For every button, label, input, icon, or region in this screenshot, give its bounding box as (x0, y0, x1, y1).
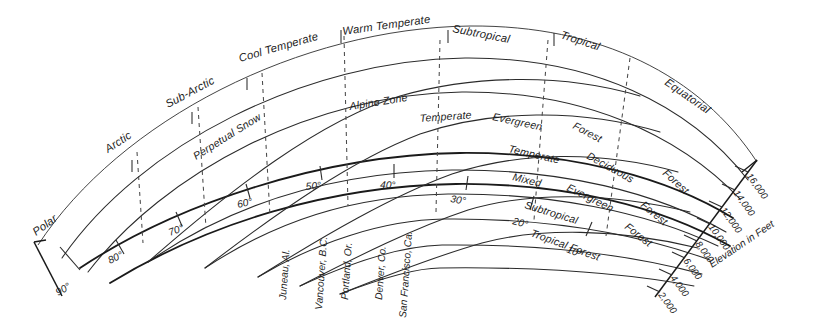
lat-tick-30 (466, 176, 468, 190)
elev-label-6000: 6,000 (681, 256, 704, 282)
zone-label-arctic: Arctic (102, 129, 134, 156)
separator-cool-temperate (262, 73, 270, 216)
lat-label-80: 80° (106, 249, 125, 266)
city-label-san-francisco: San Francisco, Ca. (397, 231, 414, 318)
lat-label-90: 90° (54, 281, 73, 298)
veg-label-perpetual-snow: Perpetual Snow (191, 110, 264, 162)
vegetation-label-group: Perpetual Snow Alpine Zone Temperate Eve… (191, 91, 693, 263)
zone-label-equatorial: Equatorial (663, 76, 713, 116)
veg-label-temperate-evergreen-a: Temperate (419, 108, 472, 124)
lat-label-50: 50° (305, 180, 321, 192)
lat-tick-50 (320, 166, 322, 180)
elev-tick-10000 (697, 218, 710, 224)
veg-label-mixed-evergreen-c: Forest (639, 198, 671, 228)
elevation-label-group: 16,000 14,000 12,000 10,000 8,000 6,000 … (656, 171, 777, 316)
lat-label-40: 40° (380, 179, 396, 191)
elev-label-2000: 2,000 (656, 289, 680, 316)
zone-label-warm-temperate: Warm Temperate (342, 13, 431, 37)
zone-label-sub-arctic: Sub-Arctic (163, 74, 216, 110)
lat-label-20: 20° (511, 215, 530, 230)
city-label-denver: Denver, Co. (373, 246, 388, 300)
arc-subtropical-forest (300, 245, 702, 286)
veg-label-temperate-evergreen-c: Forest (571, 119, 605, 145)
zone-label-cool-temperate: Cool Temperate (237, 30, 319, 64)
separator-sub-arctic (198, 107, 206, 228)
lat-tick-90 (60, 247, 80, 270)
elev-tick-14000 (722, 184, 735, 190)
city-label-portland: Portland, Or. (339, 242, 354, 300)
veg-label-temperate-evergreen-b: Evergreen (492, 110, 544, 132)
city-label-vancouver: Vancouver, B.C. (313, 236, 329, 310)
veg-label-subtropical-forest-b: Forest (623, 220, 656, 249)
veg-label-alpine-zone: Alpine Zone (347, 91, 408, 112)
left-axis-cap (34, 240, 46, 242)
separator-subtropical (436, 40, 440, 212)
zone-arc-group (38, 26, 757, 294)
veg-label-temperate-deciduous-b: Deciduous (585, 149, 637, 185)
elev-tick-4000 (659, 269, 672, 275)
elev-label-4000: 4,000 (668, 273, 691, 299)
elev-label-14000: 14,000 (731, 188, 758, 219)
zone-label-polar: Polar (30, 211, 60, 237)
elev-tick-6000 (672, 252, 685, 258)
life-zone-diagram: Polar Arctic Sub-Arctic Cool Temperate W… (0, 0, 813, 325)
diagram-canvas: Polar Arctic Sub-Arctic Cool Temperate W… (0, 0, 813, 325)
arc-sub-arctic (88, 92, 740, 272)
zone-label-tropical: Tropical (559, 28, 602, 52)
elev-tick-2000 (647, 286, 660, 292)
curve-forest-limit (300, 197, 690, 286)
elev-label-16000: 16,000 (744, 171, 771, 202)
lat-label-70: 70° (167, 222, 185, 238)
arc-arctic (62, 58, 748, 258)
veg-label-temperate-deciduous-a: Temperate (508, 142, 561, 165)
arc-tropical-forest (340, 268, 694, 294)
city-label-juneau: Juneau, Al. (277, 249, 292, 301)
veg-label-mixed-evergreen-b: Evergreen (565, 181, 616, 214)
lat-label-30: 30° (450, 193, 467, 206)
city-label-group: Juneau, Al. Vancouver, B.C. Portland, Or… (277, 231, 414, 318)
separator-arctic (137, 152, 143, 243)
